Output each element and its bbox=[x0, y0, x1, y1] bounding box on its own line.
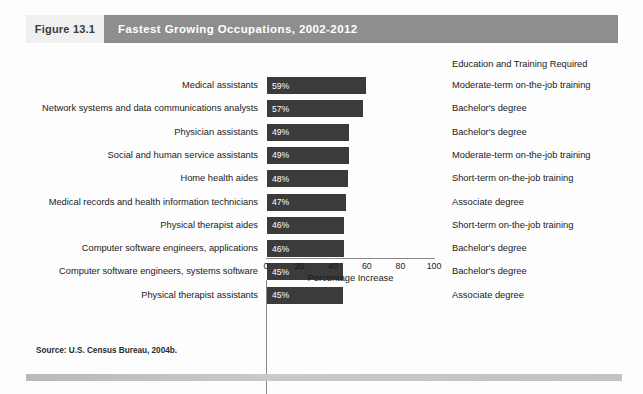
bar: 57% bbox=[267, 100, 363, 117]
bar-track: 48% bbox=[267, 170, 348, 187]
education-requirement-label: Bachelor's degree bbox=[452, 242, 527, 255]
table-row: Computer software engineers, application… bbox=[0, 240, 643, 257]
bar-track: 46% bbox=[267, 240, 344, 257]
bar: 46% bbox=[267, 217, 344, 234]
bar-value-label: 47% bbox=[267, 197, 289, 207]
bar: 49% bbox=[267, 147, 349, 164]
occupation-label: Home health aides bbox=[28, 172, 258, 185]
bar-track: 47% bbox=[267, 194, 346, 211]
occupation-label: Physician assistants bbox=[28, 126, 258, 139]
education-requirement-label: Bachelor's degree bbox=[452, 102, 527, 115]
bar: 59% bbox=[267, 77, 366, 94]
figure-title-box: Fastest Growing Occupations, 2002-2012 bbox=[104, 15, 618, 43]
x-tick-label: 0 bbox=[264, 261, 269, 271]
bar-track: 59% bbox=[267, 77, 366, 94]
education-requirement-label: Bachelor's degree bbox=[452, 126, 527, 139]
bar: 48% bbox=[267, 170, 348, 187]
x-axis-line bbox=[266, 258, 435, 259]
occupation-label: Medical assistants bbox=[28, 79, 258, 92]
bar-value-label: 57% bbox=[267, 104, 289, 114]
table-row: Social and human service assistants49%Mo… bbox=[0, 147, 643, 164]
education-requirement-label: Moderate-term on-the-job training bbox=[452, 149, 591, 162]
bar-value-label: 46% bbox=[267, 244, 289, 254]
table-row: Physical therapist aides46%Short-term on… bbox=[0, 217, 643, 234]
source-note: Source: U.S. Census Bureau, 2004b. bbox=[36, 346, 177, 355]
x-tick-label: 20 bbox=[295, 261, 305, 271]
table-row: Physician assistants49%Bachelor's degree bbox=[0, 124, 643, 141]
x-axis-title: Percentage Increase bbox=[266, 273, 435, 283]
bar-value-label: 46% bbox=[267, 220, 289, 230]
occupation-label: Physical therapist aides bbox=[28, 219, 258, 232]
x-tick-label: 100 bbox=[427, 261, 442, 271]
occupation-label: Computer software engineers, application… bbox=[28, 242, 258, 255]
x-axis: 020406080100 Percentage Increase bbox=[0, 258, 643, 308]
education-requirement-label: Associate degree bbox=[452, 196, 524, 209]
figure-title: Fastest Growing Occupations, 2002-2012 bbox=[118, 23, 358, 35]
x-tick-label: 80 bbox=[395, 261, 405, 271]
bar: 49% bbox=[267, 124, 349, 141]
bar-track: 46% bbox=[267, 217, 344, 234]
bar-value-label: 59% bbox=[267, 81, 289, 91]
education-column-header: Education and Training Required bbox=[452, 59, 587, 69]
figure-number-box: Figure 13.1 bbox=[26, 15, 104, 43]
bar: 47% bbox=[267, 194, 346, 211]
occupation-label: Network systems and data communications … bbox=[28, 102, 258, 115]
table-row: Home health aides48%Short-term on-the-jo… bbox=[0, 170, 643, 187]
table-row: Network systems and data communications … bbox=[0, 100, 643, 117]
education-requirement-label: Short-term on-the-job training bbox=[452, 172, 573, 185]
education-requirement-label: Short-term on-the-job training bbox=[452, 219, 573, 232]
figure-number-label: Figure 13.1 bbox=[35, 23, 95, 35]
x-tick-label: 40 bbox=[328, 261, 338, 271]
education-requirement-label: Moderate-term on-the-job training bbox=[452, 79, 591, 92]
bar-track: 49% bbox=[267, 124, 349, 141]
table-row: Medical records and health information t… bbox=[0, 194, 643, 211]
bar-track: 57% bbox=[267, 100, 363, 117]
figure-page: Figure 13.1 Fastest Growing Occupations,… bbox=[0, 0, 643, 394]
occupation-label: Medical records and health information t… bbox=[28, 196, 258, 209]
figure-header-band: Figure 13.1 Fastest Growing Occupations,… bbox=[26, 15, 618, 43]
bar: 46% bbox=[267, 240, 344, 257]
table-row: Medical assistants59%Moderate-term on-th… bbox=[0, 77, 643, 94]
bar-value-label: 48% bbox=[267, 174, 289, 184]
bar-value-label: 49% bbox=[267, 127, 289, 137]
occupation-label: Social and human service assistants bbox=[28, 149, 258, 162]
bar-track: 49% bbox=[267, 147, 349, 164]
x-tick-label: 60 bbox=[362, 261, 372, 271]
bar-value-label: 49% bbox=[267, 150, 289, 160]
bottom-rule-divider bbox=[26, 374, 622, 381]
